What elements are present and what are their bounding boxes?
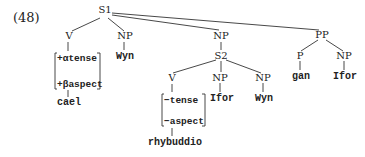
- node-np-pp: NP: [336, 51, 351, 61]
- word-cael: cael: [57, 98, 81, 108]
- feature-aspect: +βaspect: [57, 80, 103, 90]
- syntax-tree: (48): [0, 0, 365, 157]
- node-s1: S1: [98, 5, 111, 15]
- node-p: P: [297, 51, 304, 61]
- word-rhybuddio: rhybuddio: [148, 138, 202, 148]
- word-wyn-2: Wyn: [255, 94, 273, 104]
- node-v: V: [65, 31, 72, 41]
- word-ifor-1: Ifor: [210, 94, 234, 104]
- node-pp: PP: [315, 30, 328, 40]
- tree-branches: [0, 0, 365, 157]
- word-wyn-1: Wyn: [116, 52, 134, 62]
- node-np-1: NP: [117, 31, 132, 41]
- feature-minus-tense: −tense: [164, 96, 198, 106]
- word-ifor-2: Ifor: [333, 72, 357, 82]
- feature-minus-aspect: −aspect: [164, 117, 204, 127]
- node-s2: S2: [214, 51, 227, 61]
- node-np-b: NP: [255, 73, 270, 83]
- word-gan: gan: [292, 72, 310, 82]
- node-np-2: NP: [213, 31, 228, 41]
- feature-tense: +αtense: [57, 54, 97, 64]
- node-np-a: NP: [212, 73, 227, 83]
- node-v-s2: V: [168, 73, 175, 83]
